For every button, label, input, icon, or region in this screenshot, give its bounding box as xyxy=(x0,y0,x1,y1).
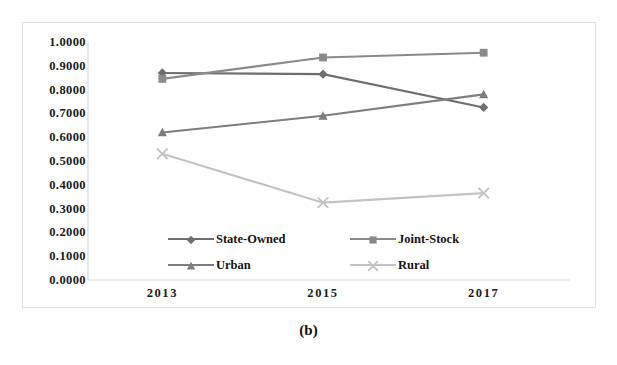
figure-caption: (b) xyxy=(0,322,617,339)
x-axis-tick: 2013 xyxy=(147,286,178,301)
legend-swatch-square-icon xyxy=(350,233,396,245)
data-point-triangle xyxy=(187,262,195,270)
x-axis-tick: 2015 xyxy=(307,286,338,301)
data-point-cross xyxy=(368,261,378,271)
data-point-square xyxy=(158,75,166,83)
legend-label: Rural xyxy=(398,258,429,273)
legend-item-state-owned[interactable]: State-Owned xyxy=(168,228,285,250)
data-point-cross xyxy=(157,149,168,160)
legend-item-urban[interactable]: Urban xyxy=(168,254,251,276)
data-point-diamond xyxy=(187,236,195,244)
legend-label: Joint-Stock xyxy=(398,232,459,247)
chart-legend: State-OwnedJoint-StockUrbanRural xyxy=(168,228,498,280)
data-point-square xyxy=(319,54,327,62)
data-point-diamond xyxy=(318,70,327,79)
data-point-square xyxy=(369,236,376,243)
x-axis-tick: 2017 xyxy=(468,286,499,301)
legend-item-joint-stock[interactable]: Joint-Stock xyxy=(350,228,459,250)
figure-panel-b: 1.00000.90000.80000.70000.60000.50000.40… xyxy=(0,0,617,365)
series-line-rural xyxy=(162,154,483,203)
legend-label: Urban xyxy=(216,258,251,273)
legend-swatch-diamond-icon xyxy=(168,233,214,245)
data-point-square xyxy=(480,49,488,57)
legend-swatch-cross-icon xyxy=(350,259,396,271)
legend-swatch-triangle-icon xyxy=(168,259,214,271)
legend-label: State-Owned xyxy=(216,232,285,247)
data-point-diamond xyxy=(479,103,488,112)
legend-item-rural[interactable]: Rural xyxy=(350,254,429,276)
